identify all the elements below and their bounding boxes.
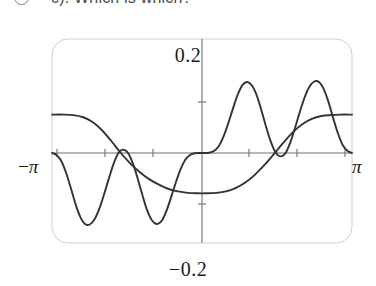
function-plot: −π π 0.2 −0.2 [0, 18, 376, 284]
question-header-text: c). Which is which? [51, 0, 192, 6]
y-axis-max-label: 0.2 [0, 44, 376, 67]
pi-glyph: π [29, 156, 39, 177]
x-axis-min-label: −π [18, 156, 38, 178]
screenshot-root: c). Which is which? [0, 0, 376, 286]
minus-sign: − [18, 156, 29, 177]
question-header: c). Which is which? [14, 0, 192, 7]
x-axis-max-label: π [352, 156, 362, 178]
header-strip: c). Which is which? [0, 0, 376, 13]
circle-bullet-icon [14, 0, 29, 5]
y-axis-min-label: −0.2 [0, 258, 376, 281]
